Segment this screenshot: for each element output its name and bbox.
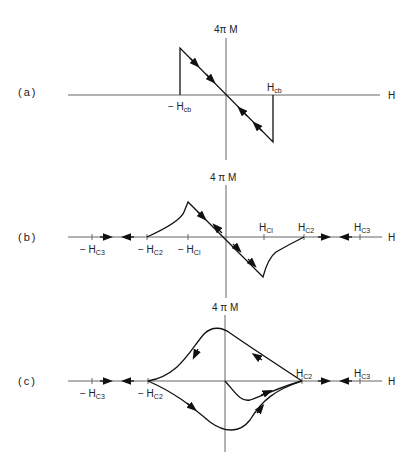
h-axis-label: H	[388, 90, 395, 101]
magnetization-diagram: (a) 4π M H − Hcb Hcb (b) 4 π M H − HC3 −…	[0, 0, 415, 467]
tick-hc2: HC2	[298, 222, 314, 234]
panel-c: (c) 4 π M H − HC3 − HC2 HC2 HC3	[18, 302, 395, 452]
tick-hc3: HC3	[354, 368, 370, 380]
tick-neg-hc1: − HCl	[178, 244, 201, 256]
m-axis-label: 4π M	[214, 24, 238, 35]
m-axis-label: 4 π M	[210, 172, 236, 183]
tick-hc3: HC3	[354, 222, 370, 234]
tick-hcb: Hcb	[267, 82, 282, 94]
tick-neg-hc2: − HC2	[138, 244, 163, 256]
panel-b-label: (b)	[18, 231, 37, 243]
panel-c-label: (c)	[18, 375, 37, 387]
panel-b: (b) 4 π M H − HC3 − HC2 − HCl HCl HC2 HC…	[18, 172, 395, 298]
tick-neg-hc2: − HC2	[138, 388, 163, 400]
curve-c-inner	[225, 381, 302, 400]
h-axis-label: H	[388, 376, 395, 387]
tick-neg-hcb: − Hcb	[168, 101, 191, 113]
h-axis-label: H	[388, 232, 395, 243]
curve-b	[147, 202, 304, 277]
panel-a-label: (a)	[18, 86, 37, 98]
tick-neg-hc3: − HC3	[80, 388, 105, 400]
tick-hc1: HCl	[259, 222, 273, 234]
tick-neg-hc3: − HC3	[80, 244, 105, 256]
m-axis-label: 4 π M	[212, 302, 238, 313]
panel-a: (a) 4π M H − Hcb Hcb	[18, 24, 395, 160]
